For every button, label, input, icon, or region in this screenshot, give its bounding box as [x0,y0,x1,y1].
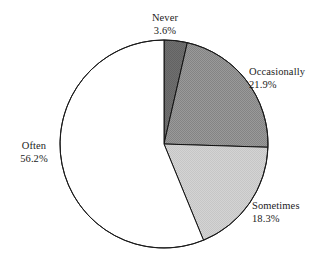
pie-chart-canvas [0,0,327,265]
pie-chart-figure: Never 3.6% Occasionally 21.9% Sometimes … [0,0,327,265]
slice-label-often-value: 56.2% [6,153,62,166]
slice-label-sometimes-name: Sometimes [252,200,327,213]
slice-label-never-value: 3.6% [130,25,200,38]
slice-label-often-name: Often [6,140,62,153]
slice-label-occasionally-value: 21.9% [249,79,327,92]
slice-label-occasionally: Occasionally 21.9% [249,66,327,91]
slice-label-sometimes: Sometimes 18.3% [252,200,327,225]
slice-label-occasionally-name: Occasionally [249,66,327,79]
slice-label-never-name: Never [130,12,200,25]
slice-label-often: Often 56.2% [6,140,62,165]
slice-label-sometimes-value: 18.3% [252,213,327,226]
slice-label-never: Never 3.6% [130,12,200,37]
